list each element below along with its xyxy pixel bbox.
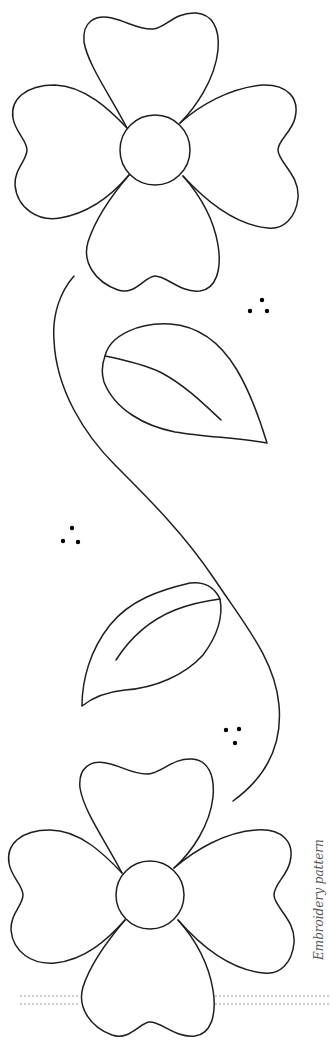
dot bbox=[61, 539, 65, 543]
dot bbox=[70, 526, 74, 530]
dots-lower-right bbox=[224, 727, 241, 745]
dot bbox=[260, 298, 264, 302]
top-flower-petal-right bbox=[180, 85, 298, 228]
dots-upper-right bbox=[248, 298, 269, 313]
lower-leaf-vein bbox=[116, 599, 220, 660]
dot bbox=[265, 309, 269, 313]
dot bbox=[237, 727, 241, 731]
stem-curve bbox=[54, 276, 280, 801]
dot bbox=[76, 540, 80, 544]
top-flower-center bbox=[120, 115, 190, 185]
lower-leaf bbox=[82, 583, 221, 706]
top-flower-petal-top bbox=[84, 13, 219, 128]
bottom-flower-petal-top bbox=[80, 759, 214, 873]
bottom-flower bbox=[9, 759, 295, 1036]
dot bbox=[224, 728, 228, 732]
bottom-flower-center bbox=[116, 861, 184, 929]
bottom-flower-petal-right bbox=[174, 830, 294, 973]
top-flower bbox=[13, 13, 299, 291]
upper-leaf-vein bbox=[105, 356, 221, 420]
upper-leaf bbox=[102, 324, 267, 443]
pattern-caption: Embroidery pattern bbox=[312, 839, 326, 960]
guide-lines bbox=[20, 996, 330, 1004]
dots-middle-left bbox=[61, 526, 80, 544]
dot bbox=[233, 741, 237, 745]
embroidery-pattern-canvas bbox=[0, 0, 330, 1048]
upper-leaf-outline bbox=[102, 324, 267, 443]
dot bbox=[248, 309, 252, 313]
lower-leaf-outline bbox=[82, 583, 221, 706]
